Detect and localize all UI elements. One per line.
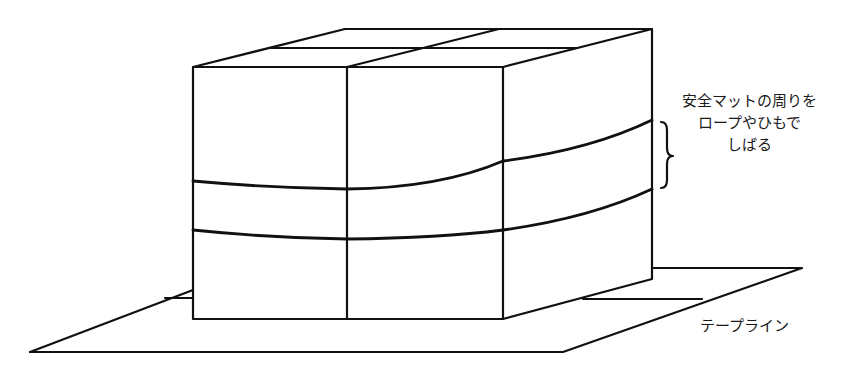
safety-mat-diagram <box>0 0 844 369</box>
rope-annotation: 安全マットの周りを ロープやひもで しばる <box>674 90 824 156</box>
rope-annotation-line-2: ロープやひもで <box>674 112 824 134</box>
tape-line-label: テープライン <box>700 315 789 337</box>
rope-annotation-line-1: 安全マットの周りを <box>674 90 824 112</box>
mat-stack <box>193 29 652 319</box>
rope-annotation-line-3: しばる <box>674 134 824 156</box>
right-curly-brace-icon <box>661 122 673 188</box>
